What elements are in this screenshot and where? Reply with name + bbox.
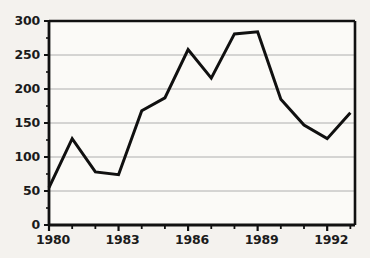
x-axis-label-1983: 1983 <box>106 234 140 247</box>
y-axis-label-0: 0 <box>32 219 41 232</box>
chart-plot-area <box>0 0 370 258</box>
y-axis-label-250: 250 <box>15 49 41 62</box>
line-chart: 300250200150100500 19801983198619891992 <box>0 0 370 258</box>
x-axis-label-1989: 1989 <box>245 234 279 247</box>
x-axis-label-1986: 1986 <box>175 234 209 247</box>
y-axis-label-300: 300 <box>15 15 41 28</box>
y-axis-label-100: 100 <box>15 151 41 164</box>
x-axis-label-1992: 1992 <box>314 234 348 247</box>
y-axis-label-200: 200 <box>15 83 41 96</box>
y-axis-label-50: 50 <box>23 185 40 198</box>
x-axis-label-1980: 1980 <box>36 234 70 247</box>
y-axis-label-150: 150 <box>15 117 41 130</box>
